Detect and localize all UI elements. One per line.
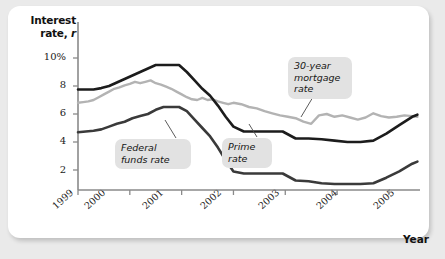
chart-plot-area: [0, 0, 445, 259]
series-line-prime-rate: [78, 65, 417, 142]
chart-figure: Interest rate, r 10% 8 6 4 2 1999 2000 2…: [0, 0, 445, 259]
leader-line-fedfunds: [165, 120, 176, 138]
series-line-30-year-mortgage-rate: [78, 80, 417, 123]
callout-mortgage-rate: 30-year mortgage rate: [288, 57, 352, 99]
callout-prime-rate: Prime rate: [222, 138, 272, 168]
leader-line-mortgage: [301, 97, 313, 117]
callout-federal-funds-rate: Federal funds rate: [115, 139, 191, 169]
x-axis-ticks: [78, 190, 389, 195]
